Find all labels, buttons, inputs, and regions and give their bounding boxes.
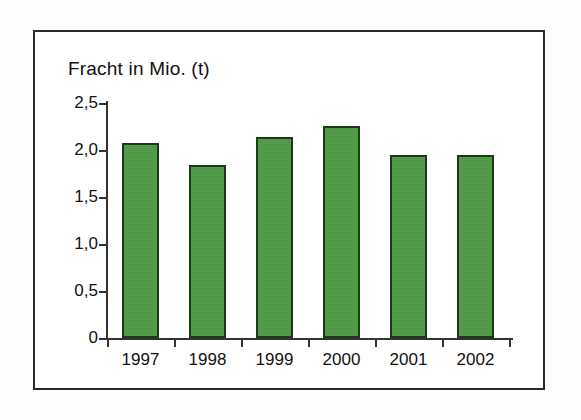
bar-1999 — [256, 137, 293, 338]
plot-area: 2,5 2,0 1,5 1,0 0,5 0 — [0, 0, 581, 420]
x-tick-2 — [241, 340, 243, 347]
y-tick-1-0 — [99, 244, 107, 246]
y-tick-label-1-5: 1,5 — [52, 188, 98, 205]
y-tick-label-2-5-wrap: 2,5 — [46, 94, 98, 112]
x-tick-5 — [442, 340, 444, 347]
x-tick-label-1997: 1997 — [107, 351, 174, 368]
x-tick-0 — [107, 340, 109, 347]
bar-2001 — [390, 155, 427, 338]
x-tick-label-1999: 1999 — [241, 351, 308, 368]
y-tick-2-0 — [99, 150, 107, 152]
y-tick-label-1-0: 1,0 — [52, 235, 98, 252]
x-tick-1 — [174, 340, 176, 347]
x-tick-label-2002: 2002 — [442, 351, 509, 368]
y-tick-label-1-0-wrap: 1,0 — [46, 235, 98, 253]
y-tick-0-5 — [99, 291, 107, 293]
y-tick-1-5 — [99, 197, 107, 199]
bar-2000 — [323, 126, 360, 338]
x-tick-6 — [509, 340, 511, 347]
x-tick-label-1998: 1998 — [174, 351, 241, 368]
y-tick-label-2-0-wrap: 2,0 — [46, 141, 98, 159]
x-tick-label-2001: 2001 — [375, 351, 442, 368]
y-tick-label-0-5: 0,5 — [52, 282, 98, 299]
bar-1997 — [122, 143, 159, 338]
y-tick-0 — [99, 338, 107, 340]
y-tick-label-0-wrap: 0 — [46, 329, 98, 347]
y-tick-2-5 — [99, 103, 107, 105]
x-tick-label-2000: 2000 — [308, 351, 375, 368]
y-tick-label-0-5-wrap: 0,5 — [46, 282, 98, 300]
bar-1998 — [189, 165, 226, 338]
y-axis-line — [106, 101, 108, 340]
bar-2002 — [457, 155, 494, 338]
y-tick-label-2-0: 2,0 — [52, 141, 98, 158]
x-tick-3 — [308, 340, 310, 347]
y-tick-label-1-5-wrap: 1,5 — [46, 188, 98, 206]
y-tick-label-2-5: 2,5 — [52, 94, 98, 111]
x-tick-4 — [375, 340, 377, 347]
y-tick-label-0: 0 — [52, 329, 98, 346]
chart-figure: Fracht in Mio. (t) 2,5 2,0 1,5 1,0 0,5 0 — [0, 0, 581, 420]
